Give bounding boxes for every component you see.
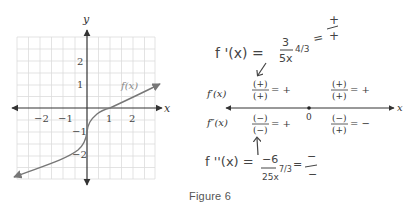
sign-cell-left: (−) (−) = +: [252, 113, 291, 135]
sign-row-label: f′(x): [206, 88, 227, 99]
sign-row-label: f″(x): [206, 117, 228, 128]
curve-label: f(x): [120, 80, 138, 91]
sign-result: = −: [350, 118, 370, 129]
first-derivative-lhs: f '(x) =: [215, 45, 264, 61]
first-derivative-annotation: f '(x) = 3 5x 4/3 = + +: [215, 13, 339, 75]
second-derivative-lhs: f ''(x) =: [205, 154, 254, 169]
figure: y x −2 −1 1 2 2 1 −1 −2 f(x) f '(x) = 3 …: [0, 0, 409, 214]
second-derivative-denominator: 25x: [262, 172, 279, 182]
x-tick-label: 1: [106, 113, 112, 124]
second-derivative-sign-den: −: [308, 168, 317, 181]
sign-cell-right: (−) (+) = −: [331, 113, 370, 135]
sign-numerator: (−): [332, 113, 347, 123]
second-derivative-equals: =: [293, 158, 302, 171]
sign-numerator: (−): [253, 113, 268, 123]
sign-result: = +: [271, 118, 291, 129]
critical-point-label: 0: [306, 112, 312, 122]
sign-cell-right: (+) (+) = +: [331, 79, 370, 101]
sign-result: = +: [350, 84, 370, 95]
first-derivative-denominator: 5x: [279, 52, 293, 65]
second-derivative-numerator: −6: [262, 153, 278, 166]
sign-chart: f′(x) (+) (+) = + (+) (+) = + 0 x f″(x) …: [206, 79, 403, 135]
first-derivative-numerator: 3: [282, 36, 289, 49]
x-tick-label: 2: [129, 113, 135, 124]
y-tick-label: 1: [77, 79, 83, 90]
sign-denominator: (+): [332, 125, 347, 135]
number-line-axis-label: x: [397, 102, 403, 113]
first-derivative-sign-den: +: [329, 29, 339, 43]
sign-numerator: (+): [332, 79, 347, 89]
critical-point-dot: [307, 106, 311, 110]
x-tick-label: −1: [58, 113, 73, 124]
second-derivative-sign-num: −: [307, 150, 316, 163]
sign-numerator: (+): [253, 79, 268, 89]
y-tick-label: 2: [77, 56, 83, 67]
y-tick-label: −2: [72, 149, 87, 160]
sign-denominator: (+): [253, 91, 268, 101]
function-graph: y x −2 −1 1 2 2 1 −1 −2 f(x): [12, 13, 171, 185]
sign-cell-left: (+) (+) = +: [252, 79, 291, 101]
y-tick-label: −1: [72, 126, 87, 137]
sign-denominator: (−): [253, 125, 268, 135]
first-derivative-exponent: 4/3: [295, 44, 309, 54]
fraction-bar: [305, 165, 317, 167]
second-derivative-annotation: f ''(x) = −6 25x 7/3 = − −: [205, 138, 317, 182]
sign-result: = +: [271, 84, 291, 95]
hand-arrow-up-icon: [257, 138, 258, 155]
y-axis-label: y: [82, 13, 90, 26]
sign-denominator: (+): [332, 91, 347, 101]
second-derivative-exponent: 7/3: [279, 165, 292, 174]
x-axis-label: x: [164, 102, 171, 115]
x-tick-label: −2: [34, 113, 49, 124]
first-derivative-equals: =: [312, 30, 325, 46]
hand-arrow-down-icon: [258, 63, 266, 75]
figure-caption: Figure 6: [189, 190, 231, 202]
first-derivative-sign-num: +: [329, 13, 339, 27]
